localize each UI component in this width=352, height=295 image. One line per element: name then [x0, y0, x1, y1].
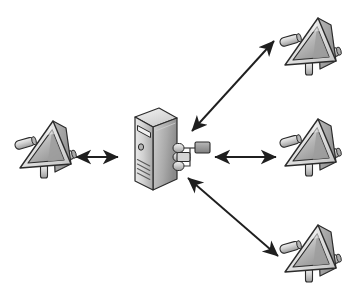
network-device-left[interactable] — [14, 121, 77, 178]
network-device-top-right[interactable] — [279, 18, 342, 75]
server-tower-icon — [135, 108, 177, 190]
network-hub-icon — [173, 142, 210, 171]
server[interactable] — [135, 108, 210, 190]
connection-server-to-top-right-device[interactable] — [192, 41, 274, 131]
connection-server-to-bottom-right-device[interactable] — [188, 178, 278, 256]
wedge-router-icon — [279, 18, 342, 75]
network-device-bottom-right[interactable] — [279, 225, 342, 282]
wedge-router-icon — [279, 225, 342, 282]
diagram-canvas — [0, 0, 352, 295]
nodes-layer — [14, 18, 342, 282]
network-device-middle-right[interactable] — [279, 119, 342, 176]
network-topology-diagram — [0, 0, 352, 295]
wedge-router-icon — [279, 119, 342, 176]
wedge-router-icon — [14, 121, 77, 178]
